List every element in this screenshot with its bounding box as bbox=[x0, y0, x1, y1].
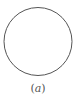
circle bbox=[4, 8, 72, 76]
figure-caption: (a) bbox=[0, 82, 76, 96]
figure: (a) bbox=[0, 0, 80, 101]
caption-close-paren: ) bbox=[41, 82, 45, 95]
